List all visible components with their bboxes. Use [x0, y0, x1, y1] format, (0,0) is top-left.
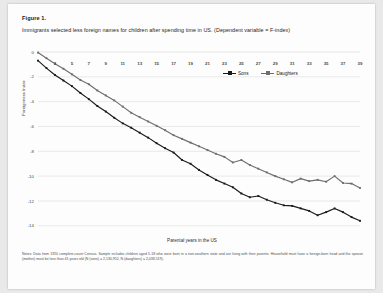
- chart-plot-area: Foreignness Index 0-2-4-6-8-10-12-143579…: [22, 44, 362, 234]
- x-axis-tick-label: 23: [218, 61, 230, 66]
- x-axis-tick-label: 13: [134, 61, 146, 66]
- x-axis-tick-label: 35: [320, 61, 332, 66]
- chart-svg: [22, 44, 362, 234]
- y-axis-tick-label: -6: [20, 124, 34, 129]
- x-axis-tick-label: 7: [83, 61, 95, 66]
- y-axis-tick-label: -2: [20, 74, 34, 79]
- chart-legend: Sons Daughters: [223, 71, 298, 76]
- x-axis-tick-label: 15: [151, 61, 163, 66]
- figure-notes: Notes: Data from 1920 complete-count Cen…: [22, 252, 363, 262]
- legend-swatch-sons: [223, 73, 236, 74]
- x-axis-tick-label: 3: [49, 61, 61, 66]
- x-axis-tick-label: 25: [235, 61, 247, 66]
- legend-swatch-daughters: [261, 73, 274, 74]
- y-axis-tick-label: -12: [20, 199, 34, 204]
- x-axis-tick-label: 27: [252, 61, 264, 66]
- x-axis-tick-label: 33: [303, 61, 315, 66]
- legend-label-sons: Sons: [238, 71, 248, 76]
- x-axis-tick-label: 17: [168, 61, 180, 66]
- y-axis-tick-label: -4: [20, 99, 34, 104]
- figure-number: Figure 1.: [22, 15, 46, 21]
- x-axis-tick-label: 9: [100, 61, 112, 66]
- x-axis-tick-label: 5: [66, 61, 78, 66]
- legend-item-sons[interactable]: Sons: [223, 71, 248, 76]
- x-axis-tick-label: 19: [185, 61, 197, 66]
- figure-title: Immigrants selected less foreign names f…: [22, 27, 290, 33]
- x-axis-tick-label: 29: [269, 61, 281, 66]
- x-axis-tick-label: 31: [286, 61, 298, 66]
- x-axis-tick-label: 39: [354, 61, 366, 66]
- x-axis-tick-label: 11: [117, 61, 129, 66]
- x-axis-tick-label: 21: [201, 61, 213, 66]
- y-axis-tick-label: -14: [20, 223, 34, 228]
- y-axis-tick-label: -8: [20, 149, 34, 154]
- x-axis-tick-label: 37: [337, 61, 349, 66]
- x-axis-title: Parental years in the US: [22, 238, 362, 243]
- y-axis-tick-label: -10: [20, 174, 34, 179]
- figure-page: Figure 1. Immigrants selected less forei…: [8, 4, 375, 289]
- legend-item-daughters[interactable]: Daughters: [261, 71, 297, 76]
- legend-label-daughters: Daughters: [276, 71, 297, 76]
- y-axis-tick-label: 0: [20, 50, 34, 55]
